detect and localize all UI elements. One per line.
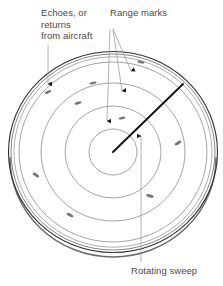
- label-rotating-sweep: Rotating sweep: [131, 265, 197, 277]
- label-range-marks: Range marks: [110, 7, 167, 19]
- radar-diagram-canvas: [0, 0, 223, 286]
- label-echoes-returns-from-aircraft: Echoes, or returns from aircraft: [41, 7, 92, 42]
- radar-scope-figure: Echoes, or returns from aircraft Range m…: [0, 0, 223, 286]
